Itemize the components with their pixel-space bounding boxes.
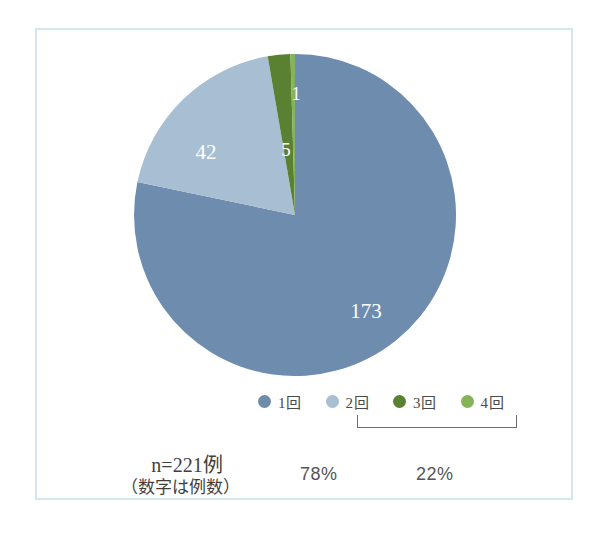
- bracket-tick-right: [516, 415, 517, 428]
- pie-label-3kai: 5: [281, 139, 291, 160]
- legend-label-2kai: 2回: [346, 391, 370, 412]
- legend-item-1kai[interactable]: 1回: [258, 391, 302, 412]
- pie-label-2kai: 42: [196, 140, 217, 164]
- legend-label-1kai: 1回: [278, 391, 302, 412]
- sample-size-label: n=221例: [90, 454, 270, 477]
- legend-swatch-2kai-icon: [326, 395, 339, 408]
- legend-swatch-4kai-icon: [461, 395, 474, 408]
- unit-caption-label: （数字は例数）: [90, 477, 270, 500]
- pie-svg: 173 42 5 1: [134, 54, 456, 376]
- legend-label-3kai: 3回: [413, 391, 437, 412]
- figure-frame: 173 42 5 1 1回 2回 3回: [35, 28, 573, 500]
- legend-swatch-1kai-icon: [258, 395, 271, 408]
- percent-label-78: 78%: [300, 464, 338, 485]
- bracket-bar: [357, 427, 517, 428]
- legend-label-4kai: 4回: [481, 391, 505, 412]
- pie-chart: 173 42 5 1: [134, 54, 456, 376]
- legend-swatch-3kai-icon: [393, 395, 406, 408]
- percent-bracket: [357, 415, 517, 429]
- legend-item-4kai[interactable]: 4回: [461, 391, 505, 412]
- legend-item-3kai[interactable]: 3回: [393, 391, 437, 412]
- sample-note-block: n=221例 （数字は例数）: [90, 454, 270, 500]
- legend-item-2kai[interactable]: 2回: [326, 391, 370, 412]
- chart-legend: 1回 2回 3回 4回: [258, 390, 563, 412]
- pie-label-4kai: 1: [291, 83, 301, 104]
- percent-label-22: 22%: [416, 464, 454, 485]
- pie-label-1kai: 173: [350, 299, 382, 323]
- figure-canvas: 173 42 5 1 1回 2回 3回: [0, 0, 593, 538]
